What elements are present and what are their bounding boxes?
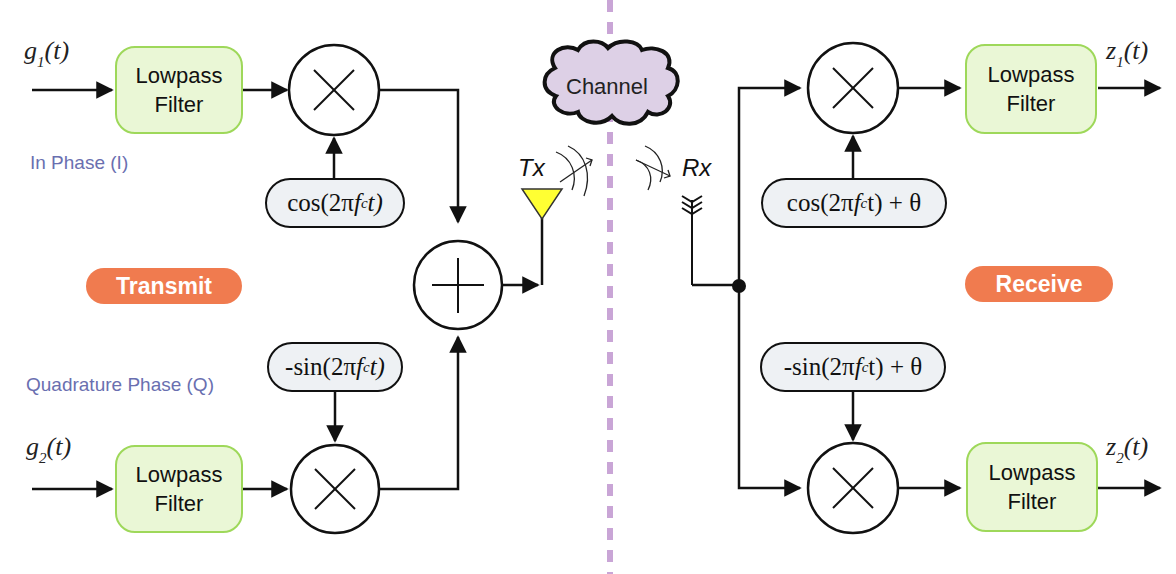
input-signal-g2: g2(t) [26,432,71,467]
receive-section-label: Receive [965,266,1113,302]
output-signal-z1: z1(t) [1106,36,1148,71]
tx-q-lowpass-filter: Lowpass Filter [115,445,243,533]
quadrature-phase-label: Quadrature Phase (Q) [26,374,214,396]
input-signal-g1: g1(t) [24,36,69,71]
in-phase-label: In Phase (I) [30,152,128,174]
rx-antenna-icon [682,196,702,285]
rx-antenna-label: Rx [682,154,711,182]
tx-i-lowpass-filter: Lowpass Filter [115,46,243,134]
rx-i-lowpass-filter: Lowpass Filter [965,44,1097,134]
rx-wave-icon [636,146,670,190]
rx-q-lowpass-filter: Lowpass Filter [966,442,1098,532]
channel-label: Channel [566,74,648,100]
tx-antenna-icon [522,189,562,219]
rx-cos-oscillator: cos(2πfct) + θ [761,178,947,228]
transmit-section-label: Transmit [86,268,242,304]
tx-cos-oscillator: cos(2πfct) [265,178,405,228]
tx-antenna-label: Tx [518,154,545,182]
iq-modulation-diagram: Channel g1(t) g2(t) In Phase (I) Quadrat… [0,0,1176,574]
output-signal-z2: z2(t) [1106,432,1148,467]
rx-sin-oscillator: -sin(2πfct) + θ [760,342,946,392]
tx-sin-oscillator: -sin(2πfct) [267,342,403,392]
